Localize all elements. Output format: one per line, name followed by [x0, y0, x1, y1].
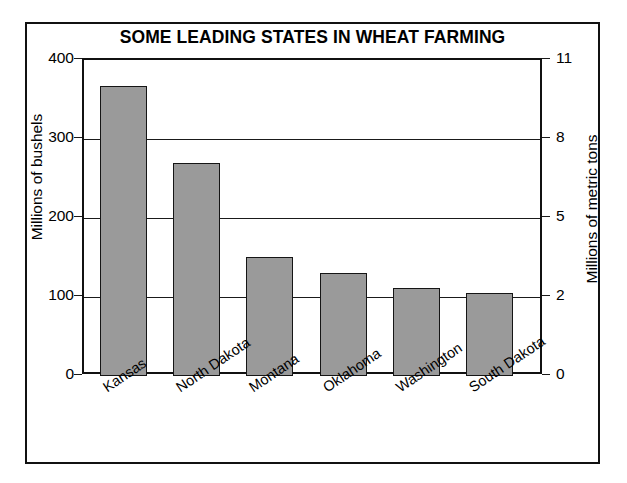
chart-title: SOME LEADING STATES IN WHEAT FARMING — [25, 27, 600, 48]
bar-kansas — [100, 86, 147, 376]
left-axis-title: Millions of bushels — [28, 82, 46, 272]
left-tick-mark — [74, 216, 82, 217]
left-axis-tick-labels: 4003002001000 — [18, 0, 74, 483]
right-tick-label: 11 — [556, 50, 596, 66]
right-tick-mark — [542, 216, 550, 217]
right-tick-mark — [542, 58, 550, 59]
right-tick-label: 0 — [556, 366, 596, 382]
right-axis-title: Millions of metric tons — [583, 104, 601, 314]
left-tick-mark — [74, 374, 82, 375]
right-tick-mark — [542, 295, 550, 296]
chart-figure: SOME LEADING STATES IN WHEAT FARMING 400… — [0, 0, 627, 483]
left-tick-mark — [74, 58, 82, 59]
right-tick-mark — [542, 374, 550, 375]
bar-north-dakota — [173, 163, 220, 376]
left-tick-label: 400 — [28, 50, 74, 66]
left-tick-label: 100 — [28, 287, 74, 303]
left-tick-mark — [74, 137, 82, 138]
gridline — [84, 139, 540, 140]
right-tick-mark — [542, 137, 550, 138]
left-tick-label: 0 — [28, 366, 74, 382]
left-tick-mark — [74, 295, 82, 296]
plot-area — [82, 58, 542, 374]
gridline — [84, 218, 540, 219]
